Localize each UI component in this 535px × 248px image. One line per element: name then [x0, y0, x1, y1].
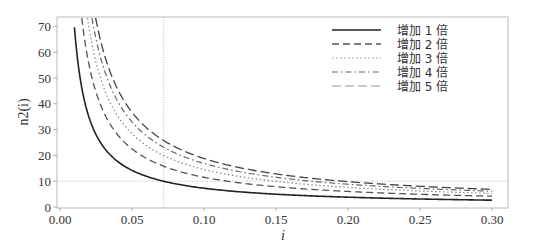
legend-label-5: 增加 5 倍 — [397, 79, 448, 94]
y-axis-title: n2(i) — [16, 98, 32, 126]
y-tick-label: 50 — [38, 71, 51, 86]
chart: 0.000.050.100.150.200.250.30 01020304050… — [0, 0, 535, 248]
x-axis-ticks: 0.000.050.100.150.200.250.30 — [49, 208, 504, 227]
y-tick-label: 20 — [38, 148, 51, 163]
legend-label-1: 增加 1 倍 — [397, 23, 448, 38]
x-tick-label: 0.30 — [481, 212, 504, 227]
y-tick-label: 70 — [38, 19, 51, 34]
y-axis-ticks: 010203040506070 — [38, 19, 57, 215]
x-tick-label: 0.20 — [337, 212, 360, 227]
x-tick-label: 0.10 — [193, 212, 216, 227]
x-tick-label: 0.05 — [121, 212, 144, 227]
legend-label-4: 增加 4 倍 — [397, 65, 448, 80]
y-tick-label: 10 — [38, 174, 51, 189]
legend-label-2: 增加 2 倍 — [397, 37, 448, 52]
y-tick-label: 30 — [38, 122, 51, 137]
y-tick-label: 60 — [38, 45, 51, 60]
x-tick-label: 0.00 — [49, 212, 72, 227]
x-axis-title: i — [281, 228, 285, 243]
y-tick-label: 40 — [38, 96, 51, 111]
x-tick-label: 0.25 — [409, 212, 432, 227]
x-tick-label: 0.15 — [265, 212, 288, 227]
y-tick-label: 0 — [45, 200, 52, 215]
legend-label-3: 增加 3 倍 — [397, 51, 448, 66]
